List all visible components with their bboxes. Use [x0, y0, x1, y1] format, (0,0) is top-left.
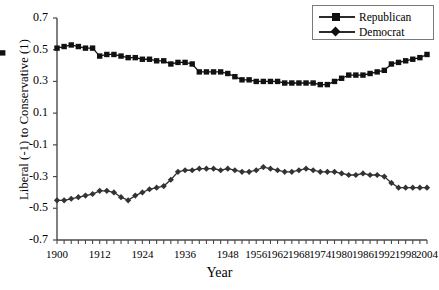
- data-point-republican: [353, 72, 358, 77]
- data-point-republican: [246, 77, 251, 82]
- data-point-democrat: [353, 172, 359, 178]
- data-point-republican: [111, 52, 116, 57]
- y-tick-label: -0.3: [12, 169, 48, 184]
- data-point-democrat: [104, 188, 110, 194]
- x-tick-label: 1900: [37, 248, 77, 260]
- data-point-republican: [204, 69, 209, 74]
- y-tick-label: -0.5: [12, 200, 48, 215]
- data-point-republican: [346, 72, 351, 77]
- data-point-republican: [239, 77, 244, 82]
- data-point-democrat: [331, 169, 337, 175]
- data-point-republican: [360, 72, 365, 77]
- data-point-republican: [211, 69, 216, 74]
- data-point-republican: [403, 58, 408, 63]
- data-point-democrat: [97, 188, 103, 194]
- data-point-democrat: [154, 185, 160, 191]
- y-tick-label: 0.3: [12, 73, 48, 88]
- data-point-democrat: [225, 166, 231, 172]
- data-point-republican: [282, 80, 287, 85]
- data-point-republican: [268, 79, 273, 84]
- data-point-republican: [382, 68, 387, 73]
- plot-area: [0, 0, 439, 290]
- data-point-democrat: [260, 164, 266, 170]
- data-point-democrat: [54, 197, 60, 203]
- data-point-democrat: [274, 167, 280, 173]
- data-point-republican: [90, 45, 95, 50]
- data-point-republican: [125, 55, 130, 60]
- data-point-republican: [104, 52, 109, 57]
- data-point-republican: [147, 57, 152, 62]
- data-point-republican: [389, 61, 394, 66]
- chart-legend: Republican Democrat: [312, 5, 434, 40]
- data-point-democrat: [367, 172, 373, 178]
- data-point-republican: [161, 58, 166, 63]
- data-point-democrat: [346, 172, 352, 178]
- x-tick-label: 1912: [80, 248, 120, 260]
- data-point-republican: [303, 80, 308, 85]
- data-point-democrat: [360, 170, 366, 176]
- data-point-republican: [218, 69, 223, 74]
- data-point-democrat: [403, 185, 409, 191]
- legend-label-democrat: Democrat: [359, 26, 404, 38]
- data-point-democrat: [61, 197, 67, 203]
- data-point-republican: [197, 69, 202, 74]
- data-point-republican: [140, 57, 145, 62]
- data-point-democrat: [253, 167, 259, 173]
- data-point-democrat: [210, 166, 216, 172]
- data-point-republican: [396, 60, 401, 65]
- data-point-republican: [424, 52, 429, 57]
- data-point-democrat: [417, 185, 423, 191]
- data-point-republican: [261, 79, 266, 84]
- data-point-democrat: [182, 167, 188, 173]
- data-point-democrat: [189, 167, 195, 173]
- legend-label-republican: Republican: [359, 11, 411, 23]
- data-point-democrat: [232, 167, 238, 173]
- data-point-democrat: [310, 167, 316, 173]
- data-point-republican: [133, 55, 138, 60]
- legend-item-democrat: Democrat: [319, 24, 404, 38]
- y-tick-label: -0.7: [12, 232, 48, 247]
- data-point-republican: [332, 79, 337, 84]
- data-point-democrat: [68, 196, 74, 202]
- data-point-republican: [69, 42, 74, 47]
- data-point-democrat: [239, 169, 245, 175]
- data-point-republican: [168, 61, 173, 66]
- data-point-democrat: [146, 186, 152, 192]
- data-point-democrat: [289, 169, 295, 175]
- data-point-democrat: [317, 169, 323, 175]
- x-tick-label: 2004: [407, 248, 439, 260]
- x-tick-label: 1924: [122, 248, 162, 260]
- data-point-republican: [83, 45, 88, 50]
- data-point-republican: [61, 44, 66, 49]
- data-point-republican: [232, 74, 237, 79]
- data-point-democrat: [339, 170, 345, 176]
- data-point-republican: [410, 57, 415, 62]
- data-point-republican: [225, 71, 230, 76]
- data-point-democrat: [324, 169, 330, 175]
- data-point-republican: [417, 55, 422, 60]
- data-point-republican: [374, 69, 379, 74]
- data-point-democrat: [296, 167, 302, 173]
- data-point-democrat: [196, 166, 202, 172]
- data-point-republican: [175, 60, 180, 65]
- data-point-republican: [97, 53, 102, 58]
- data-point-democrat: [410, 185, 416, 191]
- data-point-republican: [289, 80, 294, 85]
- data-point-democrat: [267, 166, 273, 172]
- legend-marker-square: [319, 11, 355, 23]
- data-point-democrat: [139, 189, 145, 195]
- y-tick-label: -0.1: [12, 137, 48, 152]
- data-point-republican: [325, 82, 330, 87]
- data-point-democrat: [374, 172, 380, 178]
- data-point-democrat: [89, 191, 95, 197]
- data-point-democrat: [203, 166, 209, 172]
- data-point-republican: [182, 60, 187, 65]
- data-point-republican: [310, 80, 315, 85]
- data-point-democrat: [282, 169, 288, 175]
- legend-item-republican: Republican: [319, 9, 411, 23]
- data-point-democrat: [75, 194, 81, 200]
- data-point-democrat: [246, 169, 252, 175]
- y-tick-label: 0.5: [12, 42, 48, 57]
- data-point-republican: [275, 79, 280, 84]
- data-point-republican: [318, 82, 323, 87]
